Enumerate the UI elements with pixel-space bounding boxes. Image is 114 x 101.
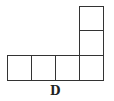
square-middle-right [79,30,104,56]
square-top-right [79,6,104,31]
square-bottom-4 [79,55,104,81]
square-bottom-3 [55,55,80,81]
square-bottom-2 [31,55,56,81]
square-bottom-1 [7,55,32,81]
figure-label: D [50,84,60,98]
